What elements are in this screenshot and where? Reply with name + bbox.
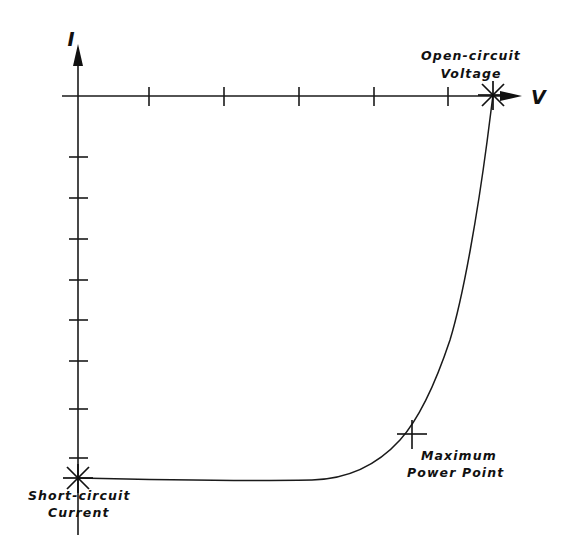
x-axis-arrow-icon — [500, 91, 522, 101]
short-circuit-current-annotation: Short-circuit Current — [28, 488, 131, 520]
maximum-power-point-marker — [397, 420, 427, 449]
iv-curve-figure: I V Open-circuit Voltage Maximum Power P… — [0, 0, 574, 542]
iv-curve-svg: I V Open-circuit Voltage Maximum Power P… — [0, 0, 574, 542]
open-circuit-voltage-marker — [478, 81, 508, 110]
x-axis-label: V — [531, 86, 547, 108]
maximum-power-point-line2: Power Point — [407, 465, 504, 480]
iv-characteristic-curve — [78, 95, 493, 480]
maximum-power-point-annotation: Maximum Power Point — [407, 448, 504, 480]
short-circuit-current-line1: Short-circuit — [28, 488, 131, 503]
short-circuit-current-line2: Current — [48, 505, 109, 520]
open-circuit-voltage-line2: Voltage — [440, 66, 501, 81]
y-axis-label: I — [67, 28, 74, 50]
maximum-power-point-line1: Maximum — [421, 448, 497, 463]
open-circuit-voltage-annotation: Open-circuit Voltage — [421, 48, 521, 81]
open-circuit-voltage-line1: Open-circuit — [421, 48, 521, 63]
